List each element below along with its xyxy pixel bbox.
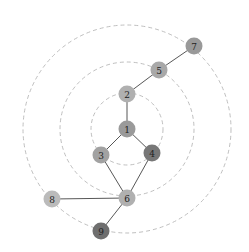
node-label: 6 bbox=[124, 194, 130, 204]
graph-nodes: 123456789 bbox=[44, 38, 203, 240]
node-label: 3 bbox=[98, 151, 104, 161]
node-label: 5 bbox=[156, 66, 162, 76]
node-5: 5 bbox=[151, 62, 168, 79]
node-3: 3 bbox=[93, 147, 110, 164]
node-7: 7 bbox=[186, 38, 203, 55]
node-8: 8 bbox=[44, 191, 61, 208]
node-1: 1 bbox=[119, 121, 136, 138]
node-6: 6 bbox=[119, 190, 136, 207]
node-label: 2 bbox=[124, 90, 130, 100]
graph-canvas: 123456789 bbox=[0, 0, 249, 252]
node-4: 4 bbox=[144, 145, 161, 162]
node-label: 1 bbox=[124, 125, 130, 135]
edge-8-6 bbox=[52, 198, 127, 199]
node-label: 8 bbox=[49, 195, 55, 205]
node-9: 9 bbox=[93, 223, 110, 240]
radial-graph-diagram: 123456789 bbox=[0, 0, 249, 252]
node-label: 7 bbox=[191, 42, 197, 52]
node-label: 4 bbox=[149, 149, 155, 159]
node-label: 9 bbox=[98, 227, 104, 237]
node-2: 2 bbox=[119, 86, 136, 103]
